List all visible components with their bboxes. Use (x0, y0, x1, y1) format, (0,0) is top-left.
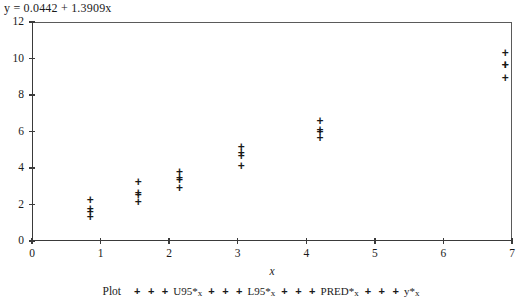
legend-entry-variable: x (271, 288, 276, 298)
x-axis-title: x (252, 265, 292, 277)
x-tick-mark (100, 238, 101, 244)
data-point (86, 208, 95, 217)
y-tick-mark (29, 204, 35, 205)
y-tick-mark (29, 58, 35, 59)
data-point (134, 191, 143, 200)
x-tick-label: 2 (157, 247, 181, 259)
x-tick-mark (237, 238, 238, 244)
legend-entry-variable: x (415, 288, 420, 298)
data-point (237, 162, 246, 171)
y-tick-mark (29, 94, 35, 95)
y-tick-label: 12 (0, 15, 24, 27)
data-point (237, 149, 246, 158)
legend-entry-variable: x (198, 288, 203, 298)
data-point (316, 128, 325, 137)
legend-entry: + + + y*x (365, 285, 420, 297)
legend-marker-icon: + + + (365, 285, 401, 297)
legend-entry-variable: x (354, 288, 359, 298)
y-tick-label: 4 (0, 161, 24, 173)
x-tick-mark (168, 238, 169, 244)
legend-marker-icon: + + + (134, 285, 170, 297)
legend-marker-icon: + + + (208, 285, 244, 297)
x-tick-label: 3 (226, 247, 250, 259)
x-tick-mark (306, 238, 307, 244)
x-tick-label: 6 (431, 247, 455, 259)
y-tick-label: 10 (0, 52, 24, 64)
x-tick-mark (511, 238, 512, 244)
legend-entry-name: U95* (173, 285, 197, 297)
y-tick-mark (29, 167, 35, 168)
chart-canvas: y = 0.0442 + 1.3909x 024681012 01234567 … (0, 0, 525, 306)
y-tick-label: 6 (0, 125, 24, 137)
data-point (501, 74, 510, 83)
data-point (175, 174, 184, 183)
plot-frame (32, 22, 512, 241)
y-tick-mark (29, 131, 35, 132)
legend-entry-name: PRED* (321, 285, 355, 297)
x-tick-label: 7 (500, 247, 524, 259)
x-tick-label: 5 (363, 247, 387, 259)
data-point (501, 49, 510, 58)
x-tick-label: 0 (20, 247, 44, 259)
legend-plot-label: Plot (103, 285, 122, 297)
regression-equation: y = 0.0442 + 1.3909x (4, 1, 112, 16)
legend-entry: + + + L95*x (208, 285, 275, 297)
x-tick-mark (443, 238, 444, 244)
y-tick-label: 0 (0, 234, 24, 246)
legend-entry-name: L95* (248, 285, 271, 297)
y-tick-label: 8 (0, 88, 24, 100)
legend-entry-name: y* (404, 285, 415, 297)
y-tick-mark (29, 21, 35, 22)
x-tick-mark (374, 238, 375, 244)
x-tick-label: 1 (89, 247, 113, 259)
data-point (501, 61, 510, 70)
legend-entry: + + + U95*x (134, 285, 202, 297)
x-tick-mark (31, 238, 32, 244)
plot-legend: Plot+ + + U95*x+ + + L95*x+ + + PRED*x+ … (0, 285, 525, 298)
legend-entry: + + + PRED*x (281, 285, 358, 297)
x-tick-label: 4 (294, 247, 318, 259)
legend-marker-icon: + + + (281, 285, 317, 297)
y-tick-label: 2 (0, 198, 24, 210)
